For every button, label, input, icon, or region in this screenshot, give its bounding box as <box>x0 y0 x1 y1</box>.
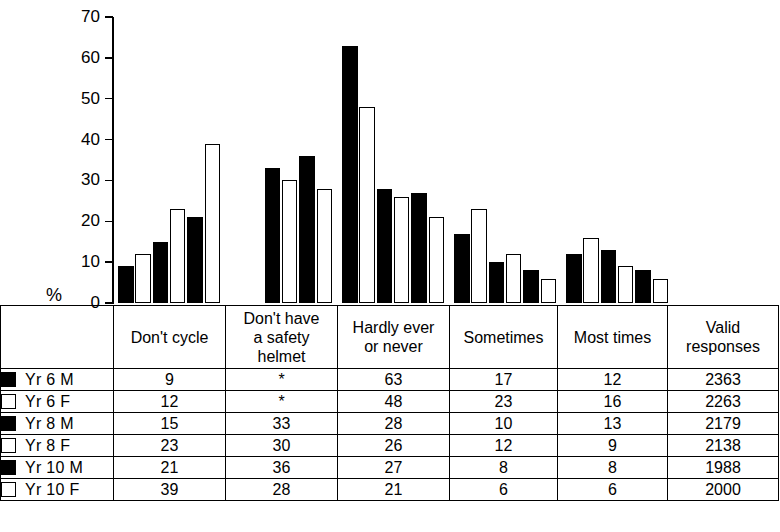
y-tick-label-text: 70 <box>60 8 100 25</box>
table-cell: 36 <box>226 457 338 479</box>
y-tick-label-50: 50 <box>52 90 100 107</box>
y-tick-0 <box>105 302 113 304</box>
table-cell: 48 <box>338 391 450 413</box>
y-tick-label-text: 10 <box>60 253 100 270</box>
bar <box>170 209 186 303</box>
bar <box>471 209 487 303</box>
table-cell: 17 <box>450 369 558 391</box>
y-tick-30 <box>105 180 113 182</box>
table-column-header-line: helmet <box>226 347 337 366</box>
legend-series-label: Yr 6 M <box>25 372 74 388</box>
y-tick-40 <box>105 139 113 141</box>
table-cell: 16 <box>558 391 668 413</box>
bar <box>618 266 634 303</box>
y-tick-label-text: 20 <box>60 212 100 229</box>
table-cell: 9 <box>114 369 226 391</box>
y-tick-70 <box>105 16 113 18</box>
table-column-header-line: Hardly ever <box>338 318 449 337</box>
table-cell: 21 <box>114 457 226 479</box>
table-cell: 39 <box>114 479 226 501</box>
table-row: Yr 10 M213627881988 <box>1 457 779 479</box>
bar <box>506 254 522 303</box>
legend-row-label-cell: Yr 6 F <box>1 391 114 413</box>
bar-group <box>561 17 673 303</box>
table-cell: 12 <box>450 435 558 457</box>
chart-figure: 706050403020100 % Don't cycleDon't havea… <box>0 0 780 532</box>
table-column-header-line: or never <box>338 337 449 356</box>
table-cell: 8 <box>558 457 668 479</box>
table-column-header: Don't cycle <box>114 306 226 369</box>
legend-series-label: Yr 8 M <box>25 416 74 432</box>
legend-row-label-cell: Yr 8 M <box>1 413 114 435</box>
legend-series-label: Yr 6 F <box>25 394 70 410</box>
legend-swatch-hollow-icon <box>1 394 16 409</box>
data-table-wrapper: Don't cycleDon't havea safetyhelmetHardl… <box>0 305 780 501</box>
bar <box>135 254 151 303</box>
table-cell: 2000 <box>668 479 779 501</box>
bar-series-container <box>113 17 780 303</box>
bar <box>541 279 557 304</box>
bar <box>359 107 375 303</box>
table-row: Yr 10 F392821662000 <box>1 479 779 501</box>
bar <box>601 250 617 303</box>
bar <box>653 279 669 304</box>
bar <box>583 238 599 303</box>
legend-swatch-filled-icon <box>1 372 16 387</box>
table-column-header-line: Don't cycle <box>114 328 225 347</box>
legend-row-label-cell: Yr 6 M <box>1 369 114 391</box>
table-column-header: Don't havea safetyhelmet <box>226 306 338 369</box>
plot-area: 706050403020100 % <box>0 0 780 310</box>
table-cell: 8 <box>450 457 558 479</box>
table-column-header-line: Sometimes <box>450 328 557 347</box>
legend-swatch-filled-icon <box>1 416 16 431</box>
table-column-header-line: Don't have <box>226 309 337 328</box>
table-body: Yr 6 M9*6317122363Yr 6 F12*4823162263Yr … <box>1 369 779 501</box>
table-column-header: Validresponses <box>668 306 779 369</box>
y-tick-20 <box>105 221 113 223</box>
y-tick-10 <box>105 261 113 263</box>
y-tick-label-40: 40 <box>52 131 100 148</box>
table-cell: 2363 <box>668 369 779 391</box>
bar-group <box>449 17 561 303</box>
legend-swatch-hollow-icon <box>1 438 16 453</box>
bar <box>489 262 505 303</box>
bar <box>377 189 393 303</box>
y-tick-50 <box>105 98 113 100</box>
table-cell: 26 <box>338 435 450 457</box>
bar <box>299 156 315 303</box>
bar-group <box>113 17 225 303</box>
table-row: Yr 6 F12*4823162263 <box>1 391 779 413</box>
bar <box>187 217 203 303</box>
table-cell: 1988 <box>668 457 779 479</box>
y-tick-label-10: 10 <box>52 253 100 270</box>
table-header-row: Don't cycleDon't havea safetyhelmetHardl… <box>1 306 779 369</box>
y-tick-label-30: 30 <box>52 171 100 188</box>
bar <box>566 254 582 303</box>
y-tick-label-text: 40 <box>60 131 100 148</box>
table-row: Yr 8 F2330261292138 <box>1 435 779 457</box>
y-tick-label-70: 70 <box>52 8 100 25</box>
bar <box>317 189 333 303</box>
table-column-header-line: responses <box>668 337 778 356</box>
table-cell: 63 <box>338 369 450 391</box>
legend-row-label-cell: Yr 10 F <box>1 479 114 501</box>
table-cell: 6 <box>450 479 558 501</box>
table-cell: 33 <box>226 413 338 435</box>
bar <box>454 234 470 303</box>
y-axis-unit-label: % <box>46 286 62 304</box>
y-tick-label-60: 60 <box>52 49 100 66</box>
table-cell: 13 <box>558 413 668 435</box>
legend-row-label-cell: Yr 8 F <box>1 435 114 457</box>
table-column-header: Most times <box>558 306 668 369</box>
table-cell: 23 <box>450 391 558 413</box>
table-cell: 2138 <box>668 435 779 457</box>
bar <box>523 270 539 303</box>
bar-group <box>225 17 337 303</box>
table-cell: 12 <box>114 391 226 413</box>
table-cell: 15 <box>114 413 226 435</box>
table-row: Yr 6 M9*6317122363 <box>1 369 779 391</box>
table-cell: 2263 <box>668 391 779 413</box>
table-cell: 21 <box>338 479 450 501</box>
table-cell: * <box>226 391 338 413</box>
table-cell: 6 <box>558 479 668 501</box>
